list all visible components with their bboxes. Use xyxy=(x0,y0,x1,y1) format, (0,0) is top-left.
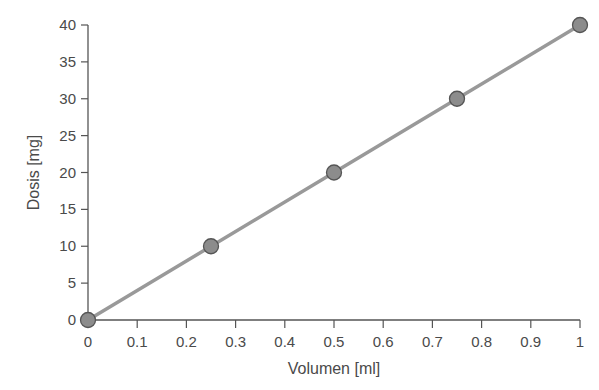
x-tick-label: 0.9 xyxy=(520,333,541,350)
x-tick-label: 1 xyxy=(576,333,584,350)
x-tick-label: 0.2 xyxy=(176,333,197,350)
x-axis-label: Volumen [ml] xyxy=(288,360,380,377)
x-tick-label: 0.4 xyxy=(274,333,295,350)
y-tick-label: 20 xyxy=(59,164,76,181)
y-tick-label: 15 xyxy=(59,200,76,217)
data-point xyxy=(81,313,96,328)
x-tick-label: 0.7 xyxy=(422,333,443,350)
x-tick-label: 0.8 xyxy=(471,333,492,350)
y-tick-label: 10 xyxy=(59,237,76,254)
x-tick-label: 0 xyxy=(84,333,92,350)
y-tick-label: 35 xyxy=(59,53,76,70)
y-tick-label: 30 xyxy=(59,90,76,107)
data-point xyxy=(450,91,465,106)
y-tick-label: 5 xyxy=(68,274,76,291)
y-tick-label: 25 xyxy=(59,127,76,144)
data-point xyxy=(204,239,219,254)
y-axis-label: Dosis [mg] xyxy=(25,135,42,211)
y-tick-label: 40 xyxy=(59,16,76,33)
data-point xyxy=(573,18,588,33)
data-point xyxy=(327,165,342,180)
x-tick-label: 0.3 xyxy=(225,333,246,350)
y-tick-label: 0 xyxy=(68,311,76,328)
x-tick-label: 0.6 xyxy=(373,333,394,350)
dose-volume-chart: 051015202530354000.10.20.30.40.50.60.70.… xyxy=(0,0,599,390)
x-tick-label: 0.5 xyxy=(324,333,345,350)
x-tick-label: 0.1 xyxy=(127,333,148,350)
